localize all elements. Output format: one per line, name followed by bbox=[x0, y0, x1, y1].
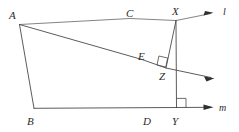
point-label-d: D bbox=[142, 115, 151, 127]
point-label-a: A bbox=[8, 9, 16, 21]
point-label-b: B bbox=[27, 115, 34, 127]
point-label-x: X bbox=[171, 5, 180, 17]
segment-x-to-y bbox=[176, 21, 177, 108]
right-angle-marker-at-y bbox=[177, 98, 186, 107]
segment-a-to-e-to-z-arrow bbox=[20, 25, 212, 78]
segment-b-to-m bbox=[34, 107, 211, 108]
point-label-z: Z bbox=[159, 70, 166, 82]
point-label-y: Y bbox=[172, 115, 180, 127]
geometry-diagram: l m A B C D E X Y Z bbox=[0, 0, 239, 132]
line-m: m bbox=[34, 102, 226, 113]
line-l-label: l bbox=[223, 6, 226, 17]
line-l-arrowhead bbox=[204, 11, 214, 16]
ray-a-through-z bbox=[20, 25, 215, 82]
segment-a-to-x-to-l bbox=[20, 14, 212, 25]
line-m-label: m bbox=[219, 102, 226, 113]
segment-a-to-b bbox=[20, 25, 35, 109]
right-angle-marker-at-z bbox=[157, 56, 168, 67]
point-label-c: C bbox=[126, 7, 134, 19]
line-m-arrowhead bbox=[204, 105, 214, 110]
point-label-e: E bbox=[137, 50, 145, 62]
line-l: l bbox=[20, 6, 227, 25]
